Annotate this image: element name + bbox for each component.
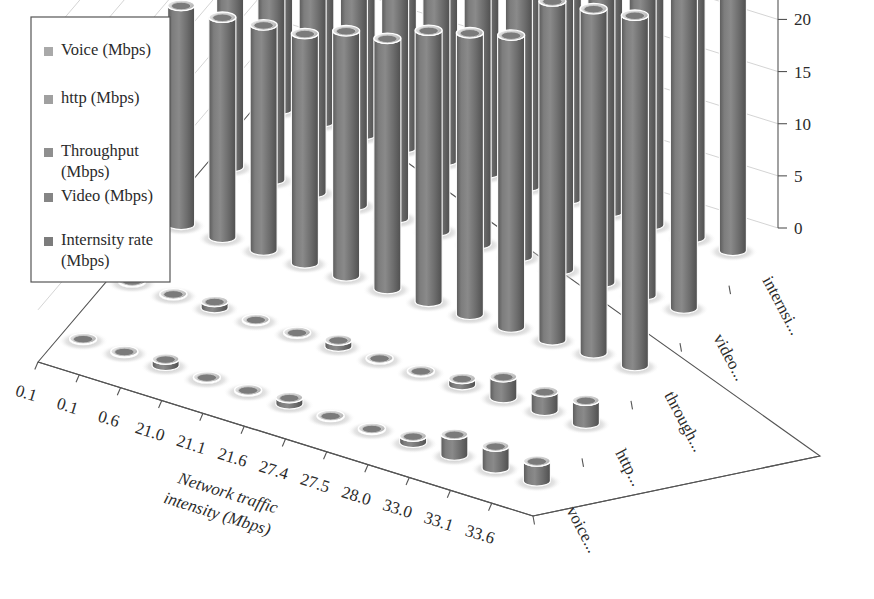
series-label-0: voice... xyxy=(562,503,602,556)
bar-body xyxy=(168,5,195,229)
legend-label: Internsity rate xyxy=(61,230,153,249)
series-label-4: internsi... xyxy=(758,273,805,338)
bar-cap-inner xyxy=(576,397,595,404)
category-tick-1 xyxy=(76,375,79,383)
category-axis-title: Network trafficintensity (Mbps) xyxy=(161,466,280,539)
bar-body xyxy=(456,33,483,320)
legend[interactable]: Voice (Mbps)http (Mbps)Throughput(Mbps)V… xyxy=(31,17,170,282)
bar-cap-inner xyxy=(171,2,190,9)
bar-cap-inner xyxy=(246,316,265,323)
bar-http (Mbps)-21.6 xyxy=(325,335,352,352)
series-tick-0 xyxy=(533,516,535,525)
z-tick-label-10: 10 xyxy=(794,115,811,134)
z-tick-label-15: 15 xyxy=(794,63,811,82)
category-tick-5 xyxy=(241,426,244,434)
bar-cap-inner xyxy=(197,374,216,381)
legend-label-cont: (Mbps) xyxy=(61,251,110,270)
bar-body xyxy=(670,0,697,313)
category-label-5: 21.6 xyxy=(215,444,249,471)
bar-body xyxy=(209,17,236,242)
bar-http (Mbps)-27.5 xyxy=(407,366,434,377)
bar-body xyxy=(415,30,442,306)
bar-body xyxy=(621,15,648,371)
bar-cap-inner xyxy=(535,388,554,395)
bar-cap-inner xyxy=(336,28,355,35)
legend-swatch-icon xyxy=(44,193,53,202)
category-label-4: 21.1 xyxy=(174,431,208,458)
bar-Voice (Mbps)-27.5 xyxy=(358,423,385,434)
category-label-10: 33.1 xyxy=(422,508,456,535)
category-label-11: 33.6 xyxy=(463,521,497,548)
bar-Voice (Mbps)-33.0 xyxy=(441,429,468,460)
chart-canvas: 051015202530350.10.10.621.021.121.627.42… xyxy=(0,0,874,599)
series-tick-3 xyxy=(680,343,682,352)
bar-http (Mbps)-21.1 xyxy=(284,327,311,338)
category-tick-6 xyxy=(282,439,285,447)
bar-Throughput (Mbps)-28.0 xyxy=(498,30,525,332)
bar-cap-inner xyxy=(378,35,397,42)
bar-Voice (Mbps)-33.1 xyxy=(482,441,509,473)
bar-body xyxy=(498,35,525,332)
z-tick-label-20: 20 xyxy=(794,10,811,29)
bar-Voice (Mbps)-27.4 xyxy=(317,410,344,421)
bar-cap-inner xyxy=(494,374,513,381)
bar-http (Mbps)-27.4 xyxy=(366,353,393,364)
bar-cap-inner xyxy=(73,335,92,342)
bar-body xyxy=(374,38,401,293)
bar-Video (Mbps)-33.6 xyxy=(670,0,697,313)
bar-cap-inner xyxy=(205,298,224,305)
bar-Voice (Mbps)-0.1 xyxy=(111,346,138,357)
legend-swatch-icon xyxy=(44,95,53,104)
bar-body xyxy=(580,9,607,358)
series-label-3: video... xyxy=(709,330,749,384)
bar-cap-inner xyxy=(403,433,422,440)
bar-body xyxy=(333,31,360,281)
bar-Voice (Mbps)-21.0 xyxy=(193,372,220,383)
category-tick-8 xyxy=(365,465,368,473)
bar-http (Mbps)-0.6 xyxy=(201,296,228,313)
category-label-2: 0.6 xyxy=(96,407,122,431)
category-label-3: 21.0 xyxy=(133,418,167,445)
category-tick-4 xyxy=(200,413,203,421)
category-tick-11 xyxy=(489,503,492,511)
bar-http (Mbps)-0.1 xyxy=(160,289,187,300)
bar-Throughput (Mbps)-33.1 xyxy=(580,3,607,358)
bar-http (Mbps)-33.6 xyxy=(572,395,599,428)
bar-Internsity rate (Mbps)-33.6 xyxy=(719,0,746,256)
bar-cap-inner xyxy=(156,356,175,363)
bar-cap-inner xyxy=(362,425,381,432)
legend-item-3[interactable]: Video (Mbps) xyxy=(44,186,153,205)
bar-cap-inner xyxy=(486,443,505,450)
bar-cap-inner xyxy=(527,458,546,465)
category-tick-0 xyxy=(35,362,38,370)
legend-label: Voice (Mbps) xyxy=(61,40,151,59)
bar-cap-inner xyxy=(254,22,273,29)
category-label-8: 28.0 xyxy=(339,482,373,509)
bar-cap-inner xyxy=(419,27,438,34)
bar-cap-inner xyxy=(625,12,644,19)
bar-cap-inner xyxy=(501,32,520,39)
legend-label-cont: (Mbps) xyxy=(61,162,110,181)
bar-cap-inner xyxy=(452,375,471,382)
legend-item-0[interactable]: Voice (Mbps) xyxy=(44,40,151,59)
bar-Voice (Mbps)-33.6 xyxy=(523,456,550,486)
legend-swatch-icon xyxy=(44,47,53,56)
bar-cap-inner xyxy=(543,0,562,5)
category-label-7: 27.5 xyxy=(298,470,332,497)
bar-Throughput (Mbps)-21.6 xyxy=(374,33,401,294)
bar-Throughput (Mbps)-33.6 xyxy=(621,10,648,371)
category-label-0: 0.1 xyxy=(13,381,39,405)
bar-body xyxy=(539,1,566,345)
bar-cap-inner xyxy=(280,394,299,401)
legend-swatch-icon xyxy=(44,237,53,246)
bar-cap-inner xyxy=(213,14,232,21)
bar-cap-inner xyxy=(445,431,464,438)
bar-Throughput (Mbps)-0.1 xyxy=(209,12,236,242)
bar-Voice (Mbps)-28.0 xyxy=(400,431,427,448)
bar-Throughput (Mbps)-21.1 xyxy=(333,25,360,280)
bar-cap-inner xyxy=(370,355,389,362)
bar-Throughput (Mbps)-33.0 xyxy=(539,0,566,345)
category-tick-3 xyxy=(159,401,162,409)
legend-label: Video (Mbps) xyxy=(61,186,153,205)
bar-Throughput (Mbps)-0.1 xyxy=(168,0,195,229)
